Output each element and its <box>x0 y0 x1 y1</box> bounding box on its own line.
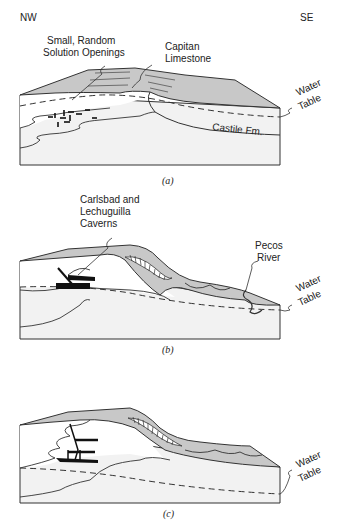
label-capitan-2: Limestone <box>165 53 212 64</box>
cross-section-diagram: NW SE <box>0 0 340 529</box>
panel-b: Carlsbad and Lechuguilla Caverns Pecos R… <box>20 194 323 356</box>
compass-nw: NW <box>20 12 37 23</box>
label-caverns-1: Carlsbad and <box>80 194 139 205</box>
label-caverns-3: Caverns <box>80 218 117 229</box>
caption-a: (a) <box>162 175 174 187</box>
label-caverns-2: Lechuguilla <box>80 206 131 217</box>
compass-se: SE <box>300 12 314 23</box>
label-pecos-1: Pecos <box>255 240 283 251</box>
panel-c: Water Table (c) <box>20 408 323 520</box>
label-openings-1: Small, Random <box>47 35 115 46</box>
caption-b: (b) <box>162 344 174 356</box>
caption-c: (c) <box>163 508 175 520</box>
label-openings-2: Solution Openings <box>43 47 125 58</box>
label-capitan-1: Capitan <box>165 41 199 52</box>
panel-a: NW SE <box>20 12 323 187</box>
label-pecos-2: River <box>257 252 281 263</box>
